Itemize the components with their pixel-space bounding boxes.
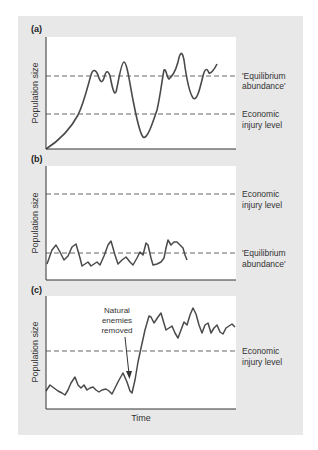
panel-b-equilibrium-label-1: 'Equilibrium: [242, 248, 286, 258]
panel-c-eil-label-1: Economic: [242, 346, 280, 356]
panel-b-eil-label-2: injury level: [242, 200, 282, 210]
panel-c-eil-label-2: injury level: [242, 357, 282, 367]
panel-b-plot-area: [46, 166, 236, 280]
panel-c-annotation-line-3: removed: [101, 326, 132, 335]
panel-b-eil-label-1: Economic: [242, 189, 280, 199]
panel-c-annotation-line-1: Natural: [104, 306, 130, 315]
panel-b-label: (b): [31, 154, 43, 164]
panel-b-equilibrium-label-2: abundance': [242, 259, 286, 269]
panel-c-label: (c): [31, 285, 42, 295]
panel-a-label: (a): [31, 24, 42, 34]
panel-a-eil-label-1: Economic: [242, 109, 280, 119]
panel-a: (a) Population size 'Equilibrium abundan…: [30, 24, 286, 149]
panel-c-y-axis-label: Population size: [30, 321, 40, 382]
panel-c-x-axis-label: Time: [131, 413, 151, 423]
panel-c-plot-area: [46, 296, 236, 409]
panel-a-equilibrium-label-1: 'Equilibrium: [242, 71, 286, 81]
panel-b: (b) Population size Economic injury leve…: [30, 154, 286, 280]
panel-b-y-axis-label: Population size: [30, 192, 40, 253]
panel-a-eil-label-2: injury level: [242, 120, 282, 130]
figure-svg: (a) Population size 'Equilibrium abundan…: [0, 0, 318, 450]
panel-a-y-axis-label: Population size: [30, 62, 40, 123]
panel-c-annotation-line-2: enemies: [102, 316, 132, 325]
panel-c: (c) Population size Natural enemies remo…: [30, 285, 282, 423]
panel-a-equilibrium-label-2: abundance': [242, 81, 286, 91]
